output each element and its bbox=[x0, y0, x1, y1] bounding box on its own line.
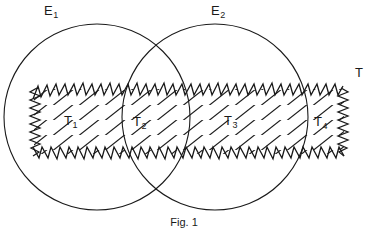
region-label-t1: T1 bbox=[64, 114, 77, 127]
region-label-t2-subscript: 2 bbox=[141, 121, 146, 131]
region-label-t3-subscript: 3 bbox=[232, 120, 237, 130]
region-label-t3: T3 bbox=[224, 114, 237, 127]
venn-diagram-figure: E1 E2 T T1 T2 T3 T4 Fig. 1 bbox=[0, 0, 368, 228]
set-label-t: T bbox=[355, 66, 363, 79]
region-label-t2: T2 bbox=[133, 115, 146, 128]
region-label-t1-subscript: 1 bbox=[72, 120, 77, 130]
set-label-e2: E2 bbox=[211, 4, 225, 17]
diagram-canvas bbox=[0, 0, 368, 228]
region-label-t4-subscript: 4 bbox=[322, 121, 327, 131]
band-hatching bbox=[34, 89, 344, 154]
region-label-t4: T4 bbox=[314, 115, 327, 128]
set-label-e1-subscript: 1 bbox=[53, 10, 58, 20]
figure-caption: Fig. 1 bbox=[0, 216, 368, 228]
set-label-e2-subscript: 2 bbox=[220, 10, 225, 20]
set-label-e1: E1 bbox=[44, 4, 58, 17]
